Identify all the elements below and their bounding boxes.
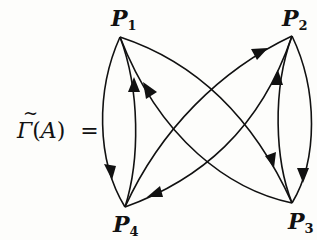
- arrowhead-icon: [147, 186, 163, 197]
- edge-p2-p4: [125, 36, 292, 207]
- arrowhead-icon: [297, 168, 309, 183]
- equals-sign: =: [80, 118, 98, 143]
- edge-p3-p1: [120, 37, 292, 203]
- node-p4-label: P4: [113, 211, 139, 239]
- diagram: ~Γ(A) = P1 P2 P3 P4: [0, 0, 317, 240]
- edge-p1-p3: [120, 37, 292, 203]
- edge-p4-p1: [120, 37, 136, 207]
- argument: A: [41, 118, 57, 143]
- arrowhead-icon: [143, 82, 157, 99]
- node-p2-label: P2: [282, 5, 308, 33]
- arrowhead-icon: [128, 77, 140, 92]
- node-p3-label: P3: [288, 208, 314, 236]
- node-p1-label: P1: [111, 5, 137, 33]
- edge-p1-p4: [103, 37, 125, 207]
- tilde-accent: ~: [23, 102, 38, 123]
- graph-function-label: ~Γ(A) =: [17, 118, 99, 143]
- edge-p4-p2: [125, 36, 292, 207]
- arrowhead-icon: [104, 164, 116, 180]
